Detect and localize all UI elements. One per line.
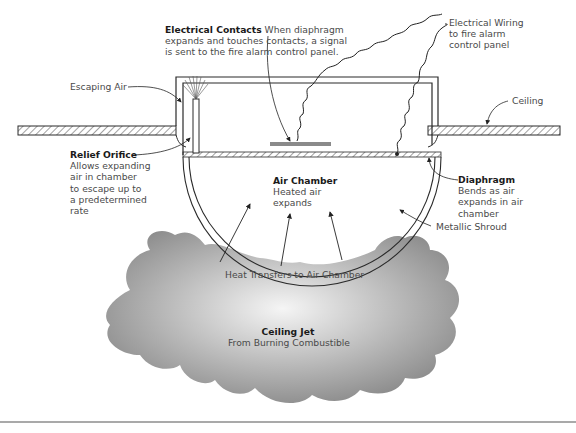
label-metallic-shroud: Metallic Shroud	[436, 221, 507, 232]
heat-arrow-center	[281, 214, 290, 266]
escaping-air-rays	[183, 76, 208, 99]
relief-orifice-line4: a predetermined	[70, 194, 151, 205]
relief-orifice-title: Relief Orifice	[70, 149, 151, 160]
electrical-wiring-line2: to fire alarm	[449, 28, 524, 39]
label-ceiling: Ceiling	[512, 95, 543, 106]
ceiling-jet-title: Ceiling Jet	[228, 326, 348, 337]
electrical-contacts-line2: expands and touches contacts, a signal	[165, 35, 347, 46]
label-ceiling-jet: Ceiling Jet From Burning Combustible	[228, 326, 348, 348]
diaphragm-line2: expands in air	[458, 196, 523, 207]
relief-orifice-tube	[193, 99, 199, 153]
label-escaping-air: Escaping Air	[70, 81, 127, 92]
ceiling-jet-line1: From Burning Combustible	[228, 337, 348, 348]
ceiling-left	[18, 126, 176, 135]
air-chamber-title: Air Chamber	[273, 175, 337, 186]
pointer-escaping-air	[128, 87, 181, 102]
label-electrical-contacts: Electrical Contacts When diaphragm expan…	[165, 24, 347, 58]
heat-arrow-right	[330, 212, 342, 260]
electrical-contact-plate	[270, 142, 331, 146]
label-relief-orifice: Relief Orifice Allows expanding air in c…	[70, 149, 151, 216]
housing	[176, 77, 438, 126]
ceiling-right	[428, 126, 560, 135]
label-diaphragm: Diaphragm Bends as air expands in air ch…	[458, 174, 523, 219]
label-electrical-wiring: Electrical Wiring to fire alarm control …	[449, 17, 524, 51]
diaphragm-line1: Bends as air	[458, 185, 523, 196]
relief-orifice-line5: rate	[70, 205, 151, 216]
relief-orifice-line1: Allows expanding	[70, 160, 151, 171]
label-air-chamber: Air Chamber Heated air expands	[273, 175, 337, 209]
electrical-wiring-line1: Electrical Wiring	[449, 17, 524, 28]
diaphragm	[183, 152, 441, 157]
air-chamber-line1: Heated air	[273, 186, 337, 197]
electrical-contacts-line3: is sent to the fire alarm control panel.	[165, 46, 347, 57]
relief-orifice-line3: to escape up to	[70, 183, 151, 194]
label-heat-transfer: Heat Transfers to Air Chamber	[225, 269, 364, 280]
electrical-contacts-title: Electrical Contacts	[165, 24, 262, 35]
diaphragm-title: Diaphragm	[458, 174, 523, 185]
air-chamber-line2: expands	[273, 197, 337, 208]
pointer-ceiling	[487, 101, 508, 124]
electrical-wiring-line3: control panel	[449, 39, 524, 50]
diaphragm-line3: chamber	[458, 208, 523, 219]
electrical-contacts-line1: When diaphragm	[265, 24, 344, 35]
pointer-metallic-shroud	[400, 210, 431, 226]
relief-orifice-line2: air in chamber	[70, 171, 151, 182]
